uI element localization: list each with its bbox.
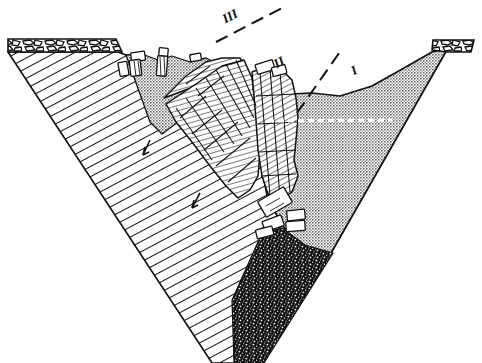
label-III: III — [219, 5, 241, 26]
detached-block — [118, 61, 129, 76]
surface-cap-right — [432, 40, 474, 52]
geological-cross-section-figure: III II I — [0, 0, 482, 363]
surface-cap-right-shape — [432, 40, 474, 52]
detached-block — [190, 53, 202, 62]
detached-block — [156, 48, 168, 77]
surface-cap-left — [8, 39, 122, 52]
detached-block — [287, 209, 306, 221]
cross-section-canvas: III II I — [0, 0, 482, 363]
surface-cap-left-shape — [8, 39, 122, 52]
label-I: I — [347, 62, 360, 79]
detached-block — [286, 220, 306, 231]
